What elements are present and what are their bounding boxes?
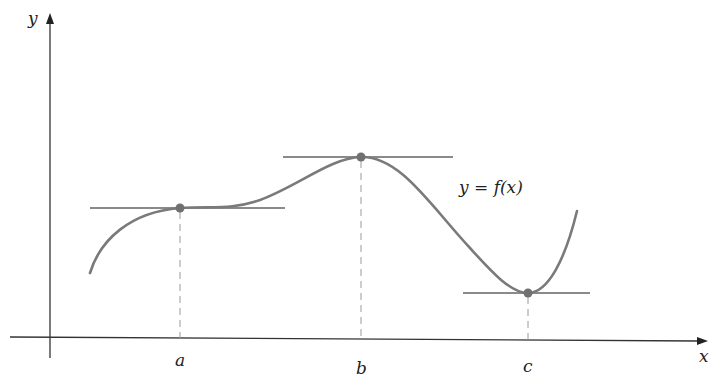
point-label-c: c [523,356,533,376]
y-axis-label: y [27,8,38,28]
x-axis [10,337,698,341]
point-label-a: a [175,350,185,370]
y-axis-arrow-icon [46,13,54,24]
x-axis-arrow-icon [697,337,708,345]
point-label-b: b [356,358,367,378]
function-graph: y x y = f(x) a b c [0,0,715,383]
point-b [357,153,366,162]
x-axis-label: x [699,346,709,366]
curve-label: y = f(x) [458,177,523,197]
critical-points [176,153,533,298]
axes [10,13,708,358]
point-a [176,204,185,213]
point-c [524,289,533,298]
